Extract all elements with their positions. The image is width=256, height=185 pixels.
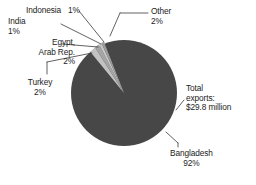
label-india: India1% — [8, 17, 26, 36]
label-turkey: Turkey 2% — [12, 78, 68, 97]
label-egypt-line1: Egypt, — [52, 37, 75, 47]
leader-line-total — [176, 100, 184, 110]
label-bangladesh-name: Bangladesh — [170, 148, 213, 158]
label-egypt: Egypt, Arab Rep. 2% — [19, 38, 75, 67]
label-india-name: India — [8, 16, 26, 26]
label-bangladesh: Bangladesh 92% — [170, 149, 213, 168]
label-egypt-line2: Arab Rep. — [39, 47, 75, 57]
label-total-line2: exports: — [186, 93, 215, 103]
label-india-value: 1% — [8, 27, 26, 37]
label-other-value: 2% — [151, 17, 171, 27]
label-turkey-name: Turkey — [28, 77, 52, 87]
label-turkey-value: 2% — [12, 88, 68, 98]
label-egypt-value: 2% — [63, 56, 75, 66]
leader-line-bangladesh-diag — [166, 132, 178, 143]
pie-chart-figure: Indonesia1% India1% Egypt, Arab Rep. 2% … — [0, 0, 256, 185]
label-total-exports: Total exports: $29.8 million — [186, 84, 231, 113]
label-total-line1: Total — [186, 83, 203, 93]
label-other-name: Other — [151, 6, 171, 16]
label-indonesia-value: 1% — [68, 5, 80, 15]
label-other: Other 2% — [151, 7, 171, 26]
label-bangladesh-value: 92% — [170, 159, 213, 169]
pie-slices — [71, 40, 177, 146]
leader-line-other-2 — [110, 13, 120, 36]
label-total-line3: $29.8 million — [186, 102, 231, 112]
label-indonesia-name: Indonesia — [26, 5, 61, 15]
label-indonesia: Indonesia1% — [26, 6, 80, 16]
leader-line-indonesia — [79, 11, 104, 42]
